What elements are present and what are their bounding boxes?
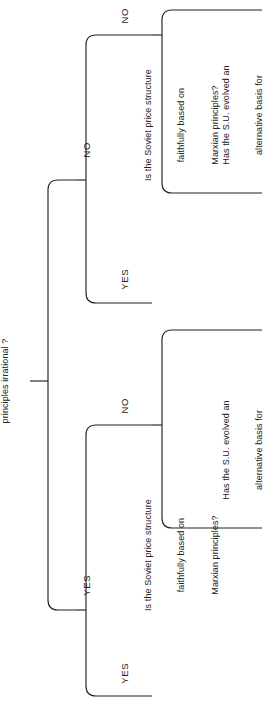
edge-label-upper-alt-no: NO bbox=[268, 6, 278, 28]
node-soviet-lower-line-1: Is the Soviet price structure bbox=[143, 490, 154, 620]
edge-root-split-spine bbox=[48, 180, 76, 381]
edge-label-upper-alt-yes: YES bbox=[268, 190, 278, 217]
edge-label-lower-soviet-yes: YES bbox=[108, 663, 130, 690]
node-alt-lower-line-2: alternative basis for bbox=[254, 370, 265, 530]
node-root-line-2: principles irrational ? bbox=[1, 321, 12, 441]
edge-upper-alt-no bbox=[162, 10, 262, 35]
node-soviet-upper-line-1: Is the Soviet price structure bbox=[143, 60, 154, 190]
node-alt-upper-line-1: Has the S.U. evolved an bbox=[221, 35, 232, 195]
node-soviet-upper-line-2: faithfully based on bbox=[176, 60, 187, 190]
node-soviet-lower-line-2: faithfully based on bbox=[176, 490, 187, 620]
edge-label-root-no: NO bbox=[70, 142, 92, 164]
node-alt-upper-line-2: alternative basis for bbox=[254, 35, 265, 195]
edge-label-upper-soviet-yes: YES bbox=[108, 269, 130, 296]
node-alt-lower-line-1: Has the S.U. evolved an bbox=[221, 370, 232, 530]
edge-label-root-yes: YES bbox=[70, 575, 92, 602]
edge-label-lower-alt-yes: YES bbox=[268, 525, 278, 552]
edge-label-upper-soviet-no: NO bbox=[108, 8, 130, 30]
edge-label-lower-soviet-no: NO bbox=[108, 398, 130, 420]
edge-label-lower-alt-no: NO bbox=[268, 326, 278, 348]
